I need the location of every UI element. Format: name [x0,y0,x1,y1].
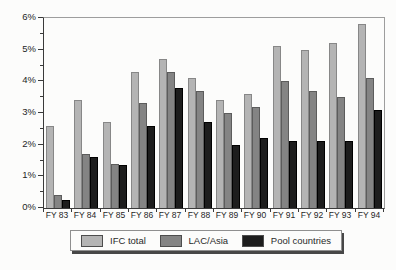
y-axis-minor-tick [40,128,43,129]
bar-group-fy-91 [271,18,299,208]
y-axis-minor-tick [40,160,43,161]
bar-lac-asia [337,97,345,208]
legend-label-ifc-total: IFC total [110,235,146,246]
bar-ifc-total [74,100,82,208]
bar-pool-countries [232,145,240,208]
bar-group-fy-90 [242,18,270,208]
bar-pool-countries [175,88,183,208]
y-axis-tick [38,112,43,113]
bar-ifc-total [329,43,337,208]
bar-pool-countries [317,141,325,208]
x-axis-tick [383,208,384,212]
bar-group-fy-93 [327,18,355,208]
bar-group-fy-83 [44,18,72,208]
y-axis-tick-label: 5% [0,44,36,54]
legend: IFC totalLAC/AsiaPool countries [70,230,342,251]
y-axis-tick-label: 6% [0,12,36,22]
x-axis-category-label: FY 91 [270,210,298,221]
bar-lac-asia [111,164,119,208]
plot-area [43,17,385,209]
bar-pool-countries [62,200,70,208]
x-axis-category-label: FY 85 [100,210,128,221]
y-axis-tick-label: 3% [0,107,36,117]
bar-ifc-total [159,59,167,208]
bar-ifc-total [188,78,196,208]
bar-lac-asia [309,91,317,208]
y-axis-tick [38,49,43,50]
legend-swatch-lac-asia [160,235,182,247]
bar-group-fy-88 [186,18,214,208]
bar-ifc-total [46,126,54,208]
x-axis-category-label: FY 86 [128,210,156,221]
bar-group-fy-89 [214,18,242,208]
bar-ifc-total [301,50,309,208]
x-axis-category-label: FY 83 [43,210,71,221]
bar-lac-asia [196,91,204,208]
bar-pool-countries [260,138,268,208]
legend-item-pool-countries: Pool countries [242,235,331,247]
x-axis-category-label: FY 88 [185,210,213,221]
bar-ifc-total [131,72,139,208]
x-axis-category-label: FY 92 [298,210,326,221]
y-axis-tick [38,175,43,176]
bar-pool-countries [204,122,212,208]
y-axis-tick-label: 0% [0,202,36,212]
legend-item-ifc-total: IFC total [81,235,146,247]
bar-ifc-total [216,100,224,208]
legend-label-pool-countries: Pool countries [271,235,331,246]
x-axis-category-label: FY 84 [71,210,99,221]
y-axis-minor-tick [40,65,43,66]
scanned-bar-chart-figure: 0%1%2%3%4%5%6% FY 83FY 84FY 85FY 86FY 87… [0,0,396,270]
x-axis-category-label: FY 87 [156,210,184,221]
bar-group-fy-87 [157,18,185,208]
legend-label-lac-asia: LAC/Asia [189,235,229,246]
x-axis-category-label: FY 90 [241,210,269,221]
y-axis-tick [38,17,43,18]
bar-ifc-total [358,24,366,208]
bar-group-fy-84 [72,18,100,208]
bar-group-fy-94 [356,18,384,208]
y-axis-tick-label: 4% [0,75,36,85]
legend-item-lac-asia: LAC/Asia [160,235,229,247]
x-axis-category-label: FY 93 [326,210,354,221]
bar-group-fy-92 [299,18,327,208]
bar-group-fy-86 [129,18,157,208]
y-axis-tick-label: 1% [0,170,36,180]
bar-ifc-total [244,94,252,208]
bar-lac-asia [139,103,147,208]
bar-pool-countries [345,141,353,208]
y-axis-minor-tick [40,33,43,34]
x-axis-category-label: FY 94 [355,210,383,221]
bar-pool-countries [90,157,98,208]
bar-ifc-total [103,122,111,208]
bar-pool-countries [147,126,155,208]
bar-group-fy-85 [101,18,129,208]
bar-lac-asia [252,107,260,208]
y-axis-tick [38,144,43,145]
x-axis-category-label: FY 89 [213,210,241,221]
y-axis-minor-tick [40,191,43,192]
legend-swatch-pool-countries [242,235,264,247]
legend-swatch-ifc-total [81,235,103,247]
y-axis-minor-tick [40,96,43,97]
bar-ifc-total [273,46,281,208]
bar-lac-asia [366,78,374,208]
bar-pool-countries [119,165,127,208]
bar-lac-asia [82,154,90,208]
bar-pool-countries [289,141,297,208]
bar-lac-asia [54,195,62,208]
y-axis-tick-label: 2% [0,139,36,149]
bar-lac-asia [167,72,175,208]
y-axis-tick [38,80,43,81]
bar-pool-countries [374,110,382,208]
bar-lac-asia [224,113,232,208]
bar-lac-asia [281,81,289,208]
